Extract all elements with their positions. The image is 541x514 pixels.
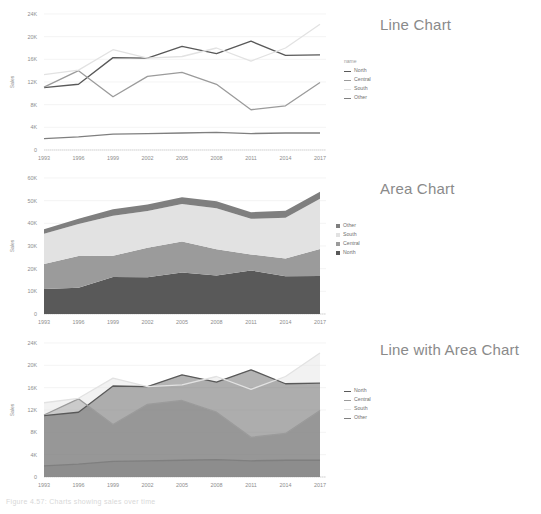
legend-line-icon [344,391,351,392]
svg-text:16K: 16K [27,56,37,62]
svg-text:1996: 1996 [73,482,85,488]
svg-text:2014: 2014 [280,482,292,488]
svg-text:50K: 50K [27,198,37,204]
area-chart-plot: 010K20K30K40K50K60KSales1993199619992002… [0,170,330,335]
svg-text:2017: 2017 [314,482,326,488]
svg-text:8K: 8K [30,429,37,435]
legend-item-label: South [354,86,368,91]
svg-text:2008: 2008 [211,155,223,161]
svg-text:4K: 4K [30,452,37,458]
legend-item-label: Other [354,415,367,420]
line-area-chart-panel: Line with Area Chart 04K8K12K16K20K24KSa… [0,335,541,495]
svg-text:2017: 2017 [314,155,326,161]
svg-text:0: 0 [34,474,37,480]
svg-text:2008: 2008 [211,482,223,488]
svg-text:2011: 2011 [245,319,257,325]
legend-item-label: Other [343,223,356,228]
legend-line-icon [344,98,351,99]
legend-item-label: North [354,68,367,73]
svg-text:1999: 1999 [107,155,119,161]
svg-text:24K: 24K [27,340,37,346]
svg-text:8K: 8K [30,102,37,108]
svg-text:1999: 1999 [107,482,119,488]
svg-text:1993: 1993 [38,155,50,161]
svg-text:2014: 2014 [280,319,292,325]
svg-text:2008: 2008 [211,319,223,325]
line-chart-title: Line Chart [380,16,451,33]
svg-text:60K: 60K [27,175,37,181]
legend-line-icon [344,80,351,81]
svg-text:12K: 12K [27,79,37,85]
legend-item-label: North [354,388,367,393]
legend-item-label: Central [343,241,360,246]
svg-text:30K: 30K [27,243,37,249]
legend-item-north[interactable]: North [336,249,360,257]
svg-text:Sales: Sales [9,239,15,252]
legend-item-south[interactable]: South [336,231,360,239]
legend-line-icon [344,89,351,90]
svg-text:2002: 2002 [142,482,154,488]
svg-text:2002: 2002 [142,319,154,325]
svg-text:Sales: Sales [9,75,15,88]
svg-text:4K: 4K [30,124,37,130]
svg-text:20K: 20K [27,34,37,40]
legend-item-label: Central [354,77,371,82]
svg-text:1993: 1993 [38,482,50,488]
svg-text:16K: 16K [27,385,37,391]
line-area-chart-legend: NorthCentralSouthOther [344,387,371,423]
svg-text:12K: 12K [27,407,37,413]
legend-item-other[interactable]: Other [336,222,360,230]
legend-item-label: North [343,250,356,255]
area-chart-panel: Area Chart 010K20K30K40K50K60KSales19931… [0,170,541,335]
legend-swatch-icon [336,242,340,246]
line-area-chart-title: Line with Area Chart [380,341,519,358]
legend-title: name [344,59,371,64]
legend-item-label: South [354,406,368,411]
area-chart-legend: OtherSouthCentralNorth [336,222,360,258]
svg-text:2017: 2017 [314,319,326,325]
line-chart-plot: 04K8K12K16K20K24KSales199319961999200220… [0,0,330,170]
svg-text:2005: 2005 [176,155,188,161]
legend-swatch-icon [336,224,340,228]
legend-item-other[interactable]: Other [344,94,371,102]
svg-text:2014: 2014 [280,155,292,161]
svg-text:1996: 1996 [73,319,85,325]
area-chart-title: Area Chart [380,180,455,197]
svg-text:2011: 2011 [245,155,257,161]
legend-item-central[interactable]: Central [344,76,371,84]
line-area-chart-plot: 04K8K12K16K20K24KSales199319961999200220… [0,335,330,495]
svg-text:1993: 1993 [38,319,50,325]
legend-item-north[interactable]: North [344,387,371,395]
legend-line-icon [344,418,351,419]
line-chart-svg: 04K8K12K16K20K24KSales199319961999200220… [0,0,330,170]
legend-item-label: Central [354,397,371,402]
svg-text:20K: 20K [27,362,37,368]
svg-text:Sales: Sales [9,403,15,416]
legend-item-south[interactable]: South [344,405,371,413]
line-area-chart-svg: 04K8K12K16K20K24KSales199319961999200220… [0,335,330,495]
legend-line-icon [344,400,351,401]
legend-swatch-icon [336,251,340,255]
svg-text:2005: 2005 [176,319,188,325]
legend-item-label: Other [354,95,367,100]
svg-text:2011: 2011 [245,482,257,488]
svg-text:0: 0 [34,147,37,153]
svg-text:10K: 10K [27,288,37,294]
legend-swatch-icon [336,233,340,237]
legend-item-north[interactable]: North [344,67,371,75]
legend-item-other[interactable]: Other [344,414,371,422]
legend-item-label: South [343,232,357,237]
line-chart-panel: Line Chart 04K8K12K16K20K24KSales1993199… [0,0,541,170]
svg-text:2005: 2005 [176,482,188,488]
legend-item-south[interactable]: South [344,85,371,93]
svg-text:40K: 40K [27,220,37,226]
svg-text:24K: 24K [27,11,37,17]
area-chart-svg: 010K20K30K40K50K60KSales1993199619992002… [0,170,330,335]
svg-text:0: 0 [34,311,37,317]
svg-text:2002: 2002 [142,155,154,161]
svg-text:1996: 1996 [73,155,85,161]
legend-item-central[interactable]: Central [336,240,360,248]
legend-line-icon [344,71,351,72]
legend-item-central[interactable]: Central [344,396,371,404]
legend-line-icon [344,409,351,410]
